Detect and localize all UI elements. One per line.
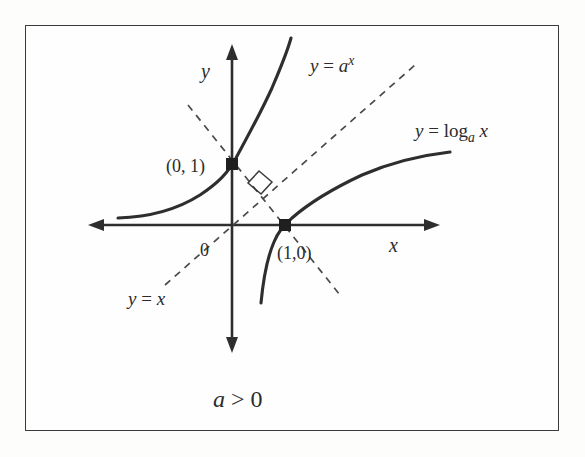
identity-label-lhs: y [126, 288, 137, 309]
caption-value: 0 [251, 386, 263, 412]
exp-label-base: a [339, 55, 349, 76]
x-axis-label: x [388, 234, 398, 256]
y-axis-label: y [199, 60, 210, 83]
y-axis-arrow-down [226, 337, 238, 353]
coordinate-label-y-intercept: (0, 1) [166, 156, 205, 177]
math-diagram: y x 0 (0, 1) (1,0) y = ax y = loga x y =… [0, 0, 585, 457]
figure-caption: a > 0 [213, 386, 263, 412]
origin-label: 0 [200, 240, 209, 260]
caption-relation: > [231, 386, 245, 412]
exp-label-exponent: x [347, 53, 354, 68]
figure-root: y x 0 (0, 1) (1,0) y = ax y = loga x y =… [0, 0, 585, 457]
x-axis-arrow-left [88, 219, 104, 231]
log-label-lhs: y [413, 120, 424, 141]
identity-label-rhs: x [156, 288, 166, 309]
log-label-eq: = [428, 120, 439, 141]
log-label-fn: log [444, 120, 469, 141]
caption-variable: a [213, 386, 225, 412]
logarithm-curve-label: y = loga x [413, 120, 489, 145]
exp-label-lhs: y [308, 55, 319, 76]
x-axis-arrow-right [424, 219, 440, 231]
point-marker-y-intercept [226, 158, 238, 170]
exponential-curve-label: y = ax [308, 53, 354, 76]
exp-label-eq: = [323, 55, 334, 76]
identity-label-eq: = [141, 288, 152, 309]
y-axis-arrow-up [226, 44, 238, 60]
coordinate-label-x-intercept: (1,0) [277, 243, 312, 264]
identity-line-label: y = x [126, 288, 166, 309]
point-marker-x-intercept [279, 219, 291, 231]
right-angle-icon [248, 171, 272, 194]
log-label-arg: x [479, 120, 489, 141]
